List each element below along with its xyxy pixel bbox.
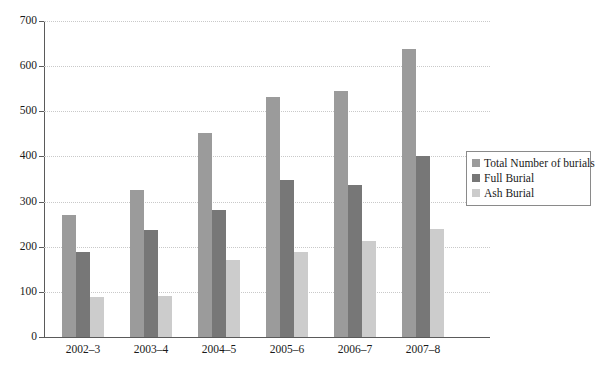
y-axis-tick-labels: 0100200300400500600700 <box>0 0 37 369</box>
legend-item[interactable]: Total Number of burials <box>472 156 585 170</box>
y-tick-label: 600 <box>3 60 37 72</box>
plot-area <box>44 21 490 337</box>
bar <box>76 252 90 337</box>
bar <box>130 190 144 337</box>
y-tick-label: 0 <box>3 331 37 343</box>
x-tick-label: 2007–8 <box>383 343 463 356</box>
y-tick-label: 200 <box>3 241 37 253</box>
legend-swatch-icon <box>472 174 480 182</box>
bar-group <box>402 21 444 337</box>
bar-group <box>62 21 104 337</box>
legend-item[interactable]: Ash Burial <box>472 186 585 200</box>
bar <box>402 49 416 337</box>
y-tick-label: 100 <box>3 286 37 298</box>
bar <box>158 296 172 337</box>
bar <box>144 230 158 337</box>
bar <box>348 185 362 337</box>
bar <box>294 252 308 337</box>
legend-label: Ash Burial <box>484 187 534 199</box>
bar-group <box>334 21 376 337</box>
y-tick-label: 500 <box>3 105 37 117</box>
legend-swatch-icon <box>472 189 480 197</box>
bar <box>198 133 212 337</box>
bar <box>226 260 240 337</box>
y-tick-label: 400 <box>3 150 37 162</box>
bar <box>280 180 294 337</box>
legend-item[interactable]: Full Burial <box>472 171 585 185</box>
bar <box>266 97 280 337</box>
bar-group <box>130 21 172 337</box>
bar-chart: 0100200300400500600700 2002–32003–42004–… <box>0 0 603 369</box>
bar <box>62 215 76 337</box>
bar <box>362 241 376 337</box>
x-axis-line <box>44 337 490 338</box>
bar-group <box>198 21 240 337</box>
y-tick-label: 300 <box>3 196 37 208</box>
legend-label: Total Number of burials <box>484 157 595 169</box>
y-tick-label: 700 <box>3 15 37 27</box>
bar <box>90 297 104 337</box>
legend-label: Full Burial <box>484 172 534 184</box>
chart-legend: Total Number of burialsFull BurialAsh Bu… <box>466 151 591 206</box>
bar-group <box>266 21 308 337</box>
legend-swatch-icon <box>472 159 480 167</box>
bar <box>416 156 430 337</box>
bar <box>430 229 444 337</box>
bar <box>334 91 348 337</box>
bar <box>212 210 226 337</box>
